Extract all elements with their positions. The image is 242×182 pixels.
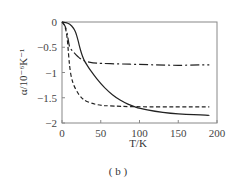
figure-caption: ( b ) (109, 165, 128, 178)
x-tick-label: 0 (59, 127, 65, 139)
y-tick-label: −1.5 (37, 92, 57, 104)
y-tick-label: 0 (52, 16, 58, 28)
y-axis-label: α/10⁻⁶K⁻¹ (17, 49, 29, 96)
y-tick-label: −0.5 (37, 41, 57, 53)
x-tick-label: 200 (209, 127, 226, 139)
axis-ticks: 0501001502000−0.5−1−1.5−2 (37, 16, 226, 139)
y-tick-label: −1 (45, 67, 57, 79)
data-series (62, 22, 209, 115)
x-tick-label: 150 (170, 127, 187, 139)
y-tick-label: −2 (45, 117, 57, 129)
series-line-solid (62, 22, 209, 115)
x-tick-label: 50 (95, 127, 107, 139)
x-axis-label: T/K (129, 137, 147, 149)
line-chart: 0501001502000−0.5−1−1.5−2 T/K α/10⁻⁶K⁻¹ … (0, 0, 242, 182)
